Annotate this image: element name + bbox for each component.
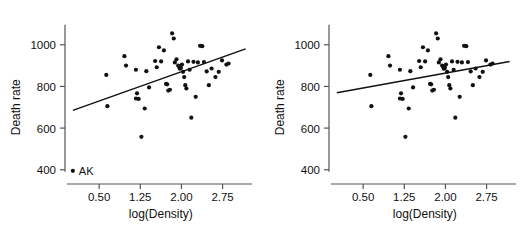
data-point [426, 48, 430, 52]
data-point [448, 86, 452, 90]
data-point [434, 31, 438, 35]
data-point [207, 83, 211, 87]
data-point [184, 86, 188, 90]
data-point [220, 58, 224, 62]
data-point [170, 31, 174, 35]
data-point [445, 70, 449, 74]
data-point [153, 59, 157, 63]
data-point [165, 82, 169, 86]
y-tick-label: 1000 [30, 39, 56, 51]
data-point [444, 62, 448, 66]
data-point [213, 75, 217, 79]
data-point [466, 60, 470, 64]
y-axis-title: Death rate [273, 79, 287, 135]
data-point [134, 68, 138, 72]
data-point [419, 65, 423, 69]
data-point [227, 61, 231, 65]
y-tick-label: 400 [301, 164, 320, 176]
data-point [174, 57, 178, 61]
regression-line [73, 49, 246, 110]
data-point [186, 59, 190, 63]
chart-panel-left: 4006008001000Death rate0.501.252.002.75l… [0, 0, 264, 230]
data-point [144, 69, 148, 73]
data-point [159, 59, 163, 63]
data-point [403, 135, 407, 139]
data-point [436, 36, 440, 40]
data-point [137, 97, 141, 101]
data-point [168, 88, 172, 92]
y-tick-label: 800 [37, 81, 56, 93]
data-point [191, 60, 195, 64]
x-tick-label: 0.50 [88, 191, 110, 203]
data-point [386, 54, 390, 58]
data-point [421, 45, 425, 49]
data-point [122, 54, 126, 58]
data-point [210, 66, 214, 70]
data-point [469, 69, 473, 73]
data-point [474, 66, 478, 70]
data-point [408, 69, 412, 73]
data-point [388, 63, 392, 67]
data-point [200, 44, 204, 48]
x-tick-label: 0.50 [352, 191, 374, 203]
data-point [432, 88, 436, 92]
point-annotation-label: AK [79, 165, 94, 177]
data-point [155, 65, 159, 69]
data-point [401, 97, 405, 101]
x-tick-label: 2.75 [211, 191, 233, 203]
data-point [143, 106, 147, 110]
data-point [407, 106, 411, 110]
data-point [188, 68, 192, 72]
data-point [139, 135, 143, 139]
data-point [491, 61, 495, 65]
data-point [180, 62, 184, 66]
data-point [455, 60, 459, 64]
data-point [471, 83, 475, 87]
data-point [484, 58, 488, 62]
data-point [217, 70, 221, 74]
x-tick-label: 2.00 [434, 191, 456, 203]
y-tick-label: 800 [301, 81, 320, 93]
data-point [162, 48, 166, 52]
data-point [172, 36, 176, 40]
x-axis-title: log(Density) [393, 207, 457, 221]
x-tick-label: 1.25 [393, 191, 415, 203]
data-point [71, 169, 75, 173]
data-point [452, 68, 456, 72]
data-point [157, 45, 161, 49]
x-tick-label: 1.25 [129, 191, 151, 203]
data-point [181, 70, 185, 74]
y-tick-label: 600 [301, 123, 320, 135]
data-point [438, 57, 442, 61]
scatter-plot-right: 4006008001000Death rate0.501.252.002.75l… [264, 0, 528, 230]
chart-panel-right: 4006008001000Death rate0.501.252.002.75l… [264, 0, 528, 230]
y-axis-title: Death rate [9, 79, 23, 135]
y-tick-label: 1000 [294, 39, 320, 51]
data-point [453, 116, 457, 120]
data-point [147, 85, 151, 89]
data-point [423, 59, 427, 63]
data-point [182, 75, 186, 79]
figure-scatter-pair: 4006008001000Death rate0.501.252.002.75l… [0, 0, 528, 230]
data-point [481, 70, 485, 74]
data-point [458, 95, 462, 99]
data-point [202, 60, 206, 64]
data-point [205, 69, 209, 73]
scatter-plot-left: 4006008001000Death rate0.501.252.002.75l… [0, 0, 264, 230]
x-tick-label: 2.00 [170, 191, 192, 203]
data-point [196, 60, 200, 64]
data-point [464, 44, 468, 48]
data-point [105, 104, 109, 108]
data-point [450, 59, 454, 63]
data-point [417, 59, 421, 63]
data-point [368, 73, 372, 77]
x-tick-label: 2.75 [475, 191, 497, 203]
data-point [124, 63, 128, 67]
data-point [477, 75, 481, 79]
x-axis-title: log(Density) [129, 207, 193, 221]
data-point [104, 73, 108, 77]
data-point [411, 85, 415, 89]
data-point [189, 116, 193, 120]
data-point [135, 91, 139, 95]
data-point [460, 60, 464, 64]
